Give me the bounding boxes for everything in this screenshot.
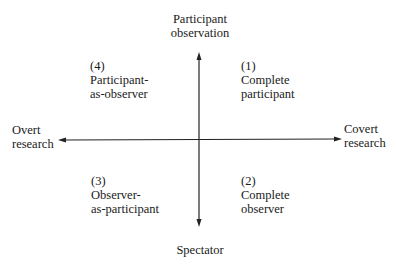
arrow-up-icon <box>197 52 202 60</box>
axis-label-line: Covert <box>344 122 386 136</box>
quadrant-number: (4) <box>90 59 148 73</box>
quadrant-label-line: as-observer <box>90 87 148 101</box>
quadrant-number: (3) <box>91 174 159 188</box>
arrow-right-icon <box>334 137 342 142</box>
quadrant-label-line: Participant- <box>90 73 148 87</box>
axis-label-participant-observation: Participant observation <box>160 12 240 40</box>
axis-label-line: research <box>12 137 54 151</box>
quadrant-number: (1) <box>241 59 294 73</box>
quadrant-complete-participant: (1) Complete participant <box>241 59 294 101</box>
axis-label-line: Participant <box>160 12 240 26</box>
quadrant-label-line: observer <box>241 202 290 216</box>
horizontal-axis-line <box>64 139 336 140</box>
arrow-left-icon <box>58 138 66 143</box>
axis-label-line: observation <box>160 26 240 40</box>
quadrant-observer-as-participant: (3) Observer- as-participant <box>91 174 159 216</box>
axis-label-line: research <box>344 136 386 150</box>
quadrant-label-line: as-participant <box>91 202 159 216</box>
quadrant-label-line: participant <box>241 87 294 101</box>
arrow-down-icon <box>197 219 202 227</box>
quadrant-label-line: Complete <box>241 188 290 202</box>
axis-label-line: Spectator <box>160 243 240 257</box>
quadrant-label-line: Complete <box>241 73 294 87</box>
quadrant-label-line: Observer- <box>91 188 159 202</box>
quadrant-number: (2) <box>241 174 290 188</box>
axis-label-spectator: Spectator <box>160 243 240 257</box>
axes <box>0 0 397 271</box>
axis-label-covert-research: Covert research <box>344 122 386 150</box>
axis-label-line: Overt <box>12 123 54 137</box>
axis-label-overt-research: Overt research <box>12 123 54 151</box>
quadrant-participant-as-observer: (4) Participant- as-observer <box>90 59 148 101</box>
quadrant-complete-observer: (2) Complete observer <box>241 174 290 216</box>
